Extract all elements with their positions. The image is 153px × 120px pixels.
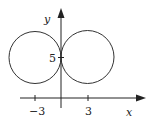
x-axis-label: x	[126, 106, 133, 119]
x-tick-label-neg3: −3	[29, 105, 45, 118]
y-axis-label: y	[43, 13, 51, 26]
y-axis-arrow-icon	[58, 8, 65, 18]
y-tick-label-5: 5	[49, 52, 56, 65]
coordinate-plane: y x −3 3 5	[0, 0, 153, 120]
right-circle	[61, 31, 114, 84]
x-axis-arrow-icon	[136, 95, 146, 102]
x-tick-label-3: 3	[85, 105, 92, 118]
